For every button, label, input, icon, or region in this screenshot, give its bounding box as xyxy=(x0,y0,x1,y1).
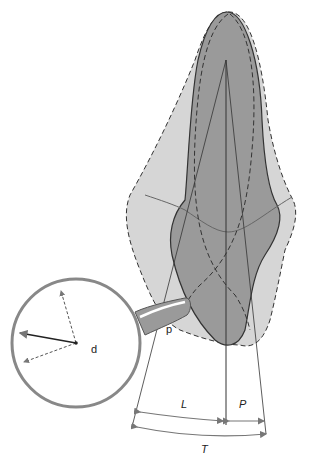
diagram-canvas xyxy=(0,0,312,461)
tooth-diagram: d p L P T xyxy=(0,0,312,461)
dimension-arrow-T xyxy=(137,427,266,436)
dimension-label-P: P xyxy=(239,398,246,410)
magnifier-label: d xyxy=(91,343,97,355)
dimension-arrow-L xyxy=(140,412,223,421)
handle-label: p xyxy=(166,323,172,335)
dimension-label-L: L xyxy=(181,398,187,410)
dimension-label-T: T xyxy=(201,443,208,455)
lens-center-dot xyxy=(74,341,78,345)
